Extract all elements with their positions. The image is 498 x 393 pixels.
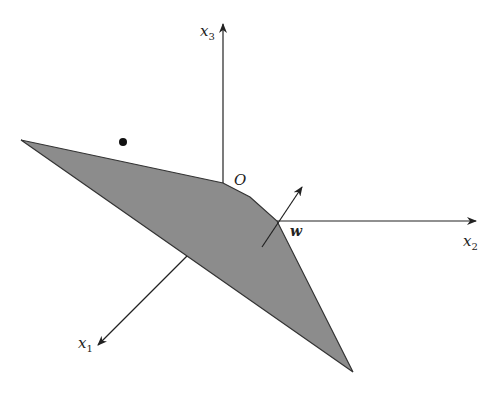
external-point bbox=[119, 138, 127, 146]
origin-label: O bbox=[234, 171, 246, 189]
x1-axis-label: x1 bbox=[78, 334, 93, 354]
x2-axis-label: x2 bbox=[463, 232, 478, 252]
normal-vector-label: w bbox=[290, 223, 303, 239]
diagram-canvas: x3 x2 x1 O w bbox=[0, 0, 498, 393]
x3-axis-label: x3 bbox=[200, 22, 215, 42]
x1-axis bbox=[98, 256, 187, 345]
